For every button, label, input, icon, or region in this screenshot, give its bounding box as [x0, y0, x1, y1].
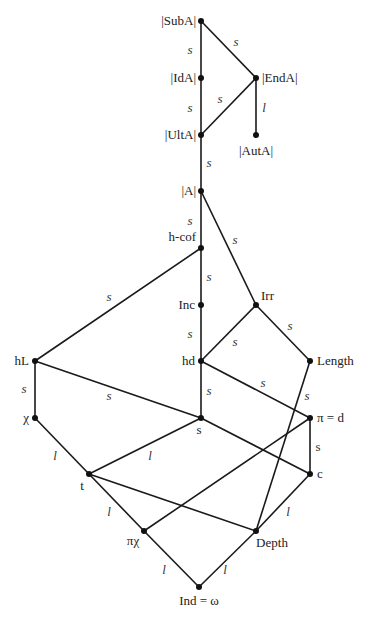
node-label-hd: hd: [182, 353, 196, 368]
node-label-IdA: |IdA|: [171, 70, 196, 85]
edge-label: s: [315, 439, 320, 454]
node-label-Inc: Inc: [178, 297, 195, 312]
edge-label: s: [232, 334, 237, 349]
node-dot-t: [86, 471, 92, 477]
edge-label: s: [217, 91, 222, 106]
node-dot-hL: [32, 358, 38, 364]
node-dot-AutA: [253, 132, 259, 138]
node-dot-IdA: [198, 75, 204, 81]
edge-Irr-Length: [256, 305, 310, 361]
edge-s-t: [89, 418, 201, 474]
node-dot-s: [198, 415, 204, 421]
node-dot-Depth: [253, 528, 259, 534]
node-labels-layer: |SubA||IdA||EndA||UltA||AutA||A|h-cofInc…: [15, 13, 355, 608]
node-dot-Irr: [253, 302, 259, 308]
node-label-hcof: h-cof: [169, 229, 197, 244]
node-label-pichi: πχ: [127, 533, 140, 548]
node-dot-hcof: [198, 245, 204, 251]
edge-label: s: [21, 381, 26, 396]
node-dot-UltA: [198, 132, 204, 138]
edge-label: l: [286, 504, 290, 519]
edge-label: l: [53, 448, 57, 463]
node-dot-EndA: [253, 75, 259, 81]
node-label-A: |A|: [181, 183, 196, 198]
node-dot-Inc: [198, 302, 204, 308]
edge-hL-s: [35, 361, 201, 418]
edge-label: s: [206, 269, 211, 284]
node-dot-hd: [198, 358, 204, 364]
edge-label: s: [233, 34, 238, 49]
node-label-c: c: [317, 466, 323, 481]
edge-pid-pichi: [144, 418, 310, 531]
edge-label: s: [304, 388, 309, 403]
node-label-SubA: |SubA|: [161, 13, 196, 28]
edge-hcof-hL: [35, 248, 201, 361]
node-dot-pichi: [141, 528, 147, 534]
edge-pichi-Ind: [144, 531, 199, 587]
edge-label: l: [223, 562, 227, 577]
edge-label: s: [187, 326, 192, 341]
node-label-Depth: Depth: [256, 535, 288, 550]
edges-layer: [35, 21, 310, 587]
nodes-layer: [32, 18, 313, 590]
node-label-chi: χ: [22, 410, 29, 425]
node-label-AutA: |AutA|: [239, 143, 273, 158]
edge-label: s: [260, 375, 265, 390]
edge-label: s: [206, 383, 211, 398]
node-dot-Ind: [196, 584, 202, 590]
edge-chi-t: [35, 418, 89, 474]
edge-s-c: [201, 418, 310, 474]
node-dot-c: [307, 471, 313, 477]
node-label-hL: hL: [15, 353, 30, 368]
edge-label: l: [262, 100, 266, 115]
node-dot-SubA: [198, 18, 204, 24]
edge-label: s: [287, 318, 292, 333]
lattice-diagram: sssslssssssssssssssllllll |SubA||IdA||En…: [0, 0, 370, 620]
edge-Irr-hd: [201, 305, 256, 361]
edge-SubA-EndA: [201, 21, 256, 78]
node-label-s: s: [196, 422, 201, 437]
node-label-EndA: |EndA|: [262, 70, 298, 85]
edge-label: s: [187, 213, 192, 228]
edge-label: l: [148, 448, 152, 463]
edge-c-Depth: [256, 474, 310, 531]
node-dot-A: [198, 188, 204, 194]
node-label-pid: π = d: [317, 410, 344, 425]
edge-label: s: [106, 289, 111, 304]
edge-label: s: [232, 232, 237, 247]
edge-hd-pid: [201, 361, 310, 418]
edge-label: s: [206, 155, 211, 170]
edge-A-Irr: [201, 191, 256, 305]
node-dot-chi: [32, 415, 38, 421]
edge-label: s: [187, 100, 192, 115]
edge-label: s: [187, 42, 192, 57]
node-label-Ind: Ind = ω: [179, 593, 219, 608]
edge-EndA-UltA: [201, 78, 256, 135]
node-label-UltA: |UltA|: [165, 127, 196, 142]
node-label-Length: Length: [317, 353, 354, 368]
edge-labels-layer: sssslssssssssssssssllllll: [21, 34, 320, 577]
edge-t-Depth: [89, 474, 256, 531]
node-label-t: t: [80, 478, 84, 493]
edge-label: l: [162, 562, 166, 577]
node-dot-pid: [307, 415, 313, 421]
node-dot-Length: [307, 358, 313, 364]
node-label-Irr: Irr: [261, 288, 275, 303]
edge-label: s: [106, 388, 111, 403]
edge-Depth-Ind: [199, 531, 256, 587]
edge-label: l: [107, 504, 111, 519]
